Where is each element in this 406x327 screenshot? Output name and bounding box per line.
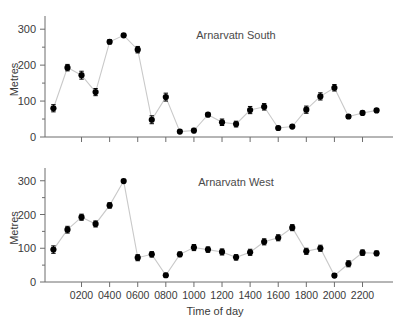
data-point [219,249,225,255]
y-axis-title: Metres [8,211,20,245]
panel-arnarvatn-south: 0100200300MetresArnarvatn South [0,0,406,162]
data-point [50,105,56,111]
data-point [205,247,211,253]
y-tick-label: 200 [18,209,36,221]
data-point [317,93,323,99]
data-point [135,47,141,53]
data-point [275,235,281,241]
data-point [149,251,155,257]
series-line [53,35,376,131]
x-tick-label: 0800 [154,289,178,301]
data-point [373,107,379,113]
y-tick-label: 0 [30,276,36,288]
data-point [177,251,183,257]
x-axis-title: Time of day [186,305,244,317]
data-point [219,119,225,125]
x-tick-label: 1200 [210,289,234,301]
data-point [261,239,267,245]
data-point [92,89,98,95]
data-point [149,117,155,123]
data-point [163,272,169,278]
x-tick-label: 1600 [267,289,291,301]
data-point [289,225,295,231]
data-point [303,107,309,113]
data-point [191,244,197,250]
data-point [233,121,239,127]
y-tick-label: 300 [18,175,36,187]
x-tick-label: 1000 [182,289,206,301]
data-point [331,85,337,91]
data-point [373,250,379,256]
data-point [50,247,56,253]
x-tick-label: 0200 [70,289,94,301]
data-point [247,107,253,113]
y-tick-label: 0 [30,131,36,143]
x-tick-label: 1800 [295,289,319,301]
data-point [64,227,70,233]
data-point [163,94,169,100]
panel-arnarvatn-west: 0100200300020004000600080010001200140016… [0,160,406,327]
data-point [205,112,211,118]
data-point [78,72,84,78]
data-point [92,221,98,227]
x-tick-label: 1400 [238,289,262,301]
y-axis-title: Metres [8,62,20,96]
chart-canvas-west: 0100200300020004000600080010001200140016… [0,160,406,327]
data-point [317,245,323,251]
series-line [53,181,376,276]
data-point [107,202,113,208]
data-point [289,123,295,129]
data-point [233,254,239,260]
x-tick-label: 2200 [351,289,375,301]
y-tick-label: 200 [18,59,36,71]
data-point [191,127,197,133]
panel-title: Arnarvatn South [196,29,276,41]
data-point [261,104,267,110]
data-point [64,65,70,71]
y-tick-label: 300 [18,23,36,35]
figure-arnarvatn-dual-panel: 0100200300MetresArnarvatn South 01002003… [0,0,406,327]
data-point [78,214,84,220]
data-point [345,261,351,267]
panel-title: Arnarvatn West [198,176,274,188]
data-point [135,255,141,261]
data-point [303,248,309,254]
x-tick-label: 0400 [98,289,122,301]
data-point [345,113,351,119]
data-point [177,129,183,135]
data-point [107,39,113,45]
x-tick-label: 2000 [323,289,347,301]
data-point [275,125,281,131]
chart-canvas-south: 0100200300MetresArnarvatn South [0,0,406,162]
data-point [121,32,127,38]
data-point [359,110,365,116]
y-tick-label: 100 [18,242,36,254]
x-tick-label: 0600 [126,289,150,301]
data-point [121,178,127,184]
data-point [331,272,337,278]
data-point [247,249,253,255]
data-point [359,250,365,256]
y-tick-label: 100 [18,95,36,107]
